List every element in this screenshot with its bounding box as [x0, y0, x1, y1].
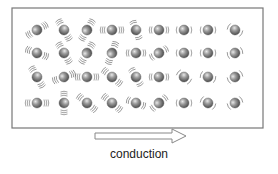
particle [226, 95, 244, 111]
particle [128, 19, 144, 41]
particle [199, 95, 217, 111]
particle [100, 66, 124, 89]
particle [200, 25, 216, 35]
particle [176, 48, 192, 58]
particle [126, 48, 146, 58]
particle [51, 68, 77, 85]
particle [75, 92, 99, 115]
particle [103, 40, 120, 66]
particle [149, 72, 169, 82]
conduction-label: conduction [0, 147, 278, 161]
particle [127, 66, 145, 88]
particle [226, 22, 244, 38]
particle [75, 72, 99, 82]
particle [176, 98, 192, 108]
particle-lattice [24, 17, 244, 114]
particle [200, 48, 216, 58]
particle [199, 70, 217, 85]
particle [100, 92, 124, 115]
particle [25, 98, 49, 108]
particle [24, 44, 50, 61]
particle [149, 25, 169, 35]
particle [77, 40, 97, 65]
particle [176, 25, 192, 35]
particle [59, 91, 69, 115]
particle [125, 95, 147, 111]
particle [100, 25, 124, 35]
particle [54, 17, 74, 42]
particle [148, 44, 170, 62]
particle [226, 69, 244, 85]
particle [27, 64, 47, 89]
particle [226, 46, 244, 61]
particle [54, 40, 74, 65]
particle [175, 68, 193, 86]
particle [148, 93, 169, 113]
conduction-arrow-icon [95, 129, 186, 143]
particle [24, 20, 49, 40]
particle [77, 17, 97, 42]
